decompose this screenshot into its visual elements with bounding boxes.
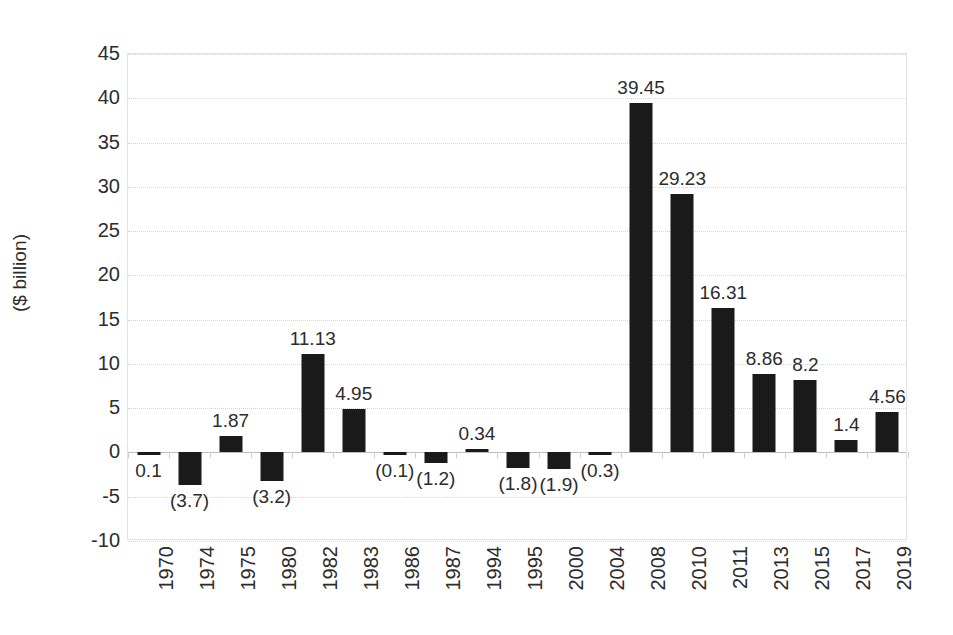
bar-slot: 8.86 (744, 54, 785, 539)
x-axis-tick-mark (456, 452, 457, 458)
x-axis-tick-mark (415, 452, 416, 458)
bar-slot: 8.2 (785, 54, 826, 539)
x-axis-tick-mark (867, 452, 868, 458)
x-axis-tick-mark (128, 452, 129, 458)
x-tick-label: 2008 (648, 546, 668, 591)
bar[interactable] (876, 412, 899, 452)
bar-value-label: 8.2 (792, 355, 818, 374)
bar[interactable] (383, 452, 406, 455)
bar[interactable] (301, 354, 324, 453)
bar[interactable] (671, 194, 694, 453)
bar-slot: (1.9) (539, 54, 580, 539)
x-tick-label: 2015 (812, 546, 832, 591)
bar-value-label: (3.7) (170, 491, 209, 510)
x-tick-label: 1994 (484, 546, 504, 591)
bar[interactable] (506, 452, 529, 468)
bar-value-label: (1.8) (498, 474, 537, 493)
bar[interactable] (630, 103, 653, 452)
x-axis-tick-mark (826, 452, 827, 458)
bar-slot: 16.31 (703, 54, 744, 539)
y-tick-label: 15 (98, 309, 120, 329)
x-axis-tick-mark (580, 452, 581, 458)
bar-slot: 0.34 (456, 54, 497, 539)
y-axis-tick-labels: 454035302520151050-5-10 (46, 0, 120, 635)
bar[interactable] (753, 374, 776, 452)
bar-value-label: 0.34 (458, 424, 495, 443)
bar-slot: (0.3) (580, 54, 621, 539)
x-tick-label: 1970 (156, 546, 176, 591)
bar-slot: 1.4 (826, 54, 867, 539)
bar[interactable] (835, 440, 858, 452)
y-tick-label: 5 (109, 397, 120, 417)
bar-value-label: 1.87 (212, 411, 249, 430)
x-tick-label: 2000 (566, 546, 586, 591)
x-tick-label: 2017 (853, 546, 873, 591)
x-tick-label: 1982 (320, 546, 340, 591)
x-axis-tick-mark (210, 452, 211, 458)
x-tick-label: 1975 (238, 546, 258, 591)
x-axis-tick-mark (703, 452, 704, 458)
bar[interactable] (712, 308, 735, 452)
bar[interactable] (260, 452, 283, 480)
x-tick-label: 1986 (402, 546, 422, 591)
bar-slot: 11.13 (292, 54, 333, 539)
bar[interactable] (424, 452, 447, 463)
bar-value-label: 4.95 (335, 384, 372, 403)
x-axis-tick-mark (785, 452, 786, 458)
x-tick-label: 1995 (525, 546, 545, 591)
plot-area: 0.1(3.7)1.87(3.2)11.134.95(0.1)(1.2)0.34… (127, 53, 907, 540)
bar-slot: 29.23 (662, 54, 703, 539)
bar[interactable] (548, 452, 571, 469)
x-axis-tick-mark (374, 452, 375, 458)
bar-value-label: (0.1) (375, 461, 414, 480)
bar[interactable] (137, 452, 160, 455)
x-tick-label: 1980 (279, 546, 299, 591)
x-axis-tick-mark (169, 452, 170, 458)
bar[interactable] (794, 380, 817, 453)
bar-slot: (3.2) (251, 54, 292, 539)
y-tick-label: 25 (98, 220, 120, 240)
bar-value-label: 0.1 (135, 461, 161, 480)
x-tick-label: 1983 (361, 546, 381, 591)
y-tick-label: -10 (91, 530, 120, 550)
bar-slot: (3.7) (169, 54, 210, 539)
x-axis-tick-mark (539, 452, 540, 458)
gridline--10 (128, 541, 906, 542)
x-tick-label: 1987 (443, 546, 463, 591)
y-axis-title: ($ billion) (0, 0, 40, 545)
x-tick-label: 2019 (894, 546, 914, 591)
bar-slot: (1.2) (415, 54, 456, 539)
bar[interactable] (589, 452, 612, 455)
bar-value-label: (1.9) (539, 475, 578, 494)
x-axis-tick-mark (744, 452, 745, 458)
x-tick-label: 2011 (730, 546, 750, 589)
y-tick-label: 40 (98, 87, 120, 107)
bar-slot: 4.95 (333, 54, 374, 539)
bar[interactable] (219, 436, 242, 453)
bar-value-label: 16.31 (699, 283, 747, 302)
x-axis-tick-mark (908, 452, 909, 458)
x-axis-tick-labels: 1970197419751980198219831986198719941995… (127, 546, 907, 626)
x-axis-tick-mark (662, 452, 663, 458)
bar-value-label: 4.56 (869, 387, 906, 406)
x-axis-tick-mark (333, 452, 334, 458)
bar[interactable] (178, 452, 201, 485)
bar-value-label: 8.86 (746, 349, 783, 368)
bar-value-label: (3.2) (252, 487, 291, 506)
y-tick-label: 35 (98, 132, 120, 152)
x-tick-label: 2010 (689, 546, 709, 591)
bars-layer: 0.1(3.7)1.87(3.2)11.134.95(0.1)(1.2)0.34… (128, 54, 906, 539)
y-tick-label: 45 (98, 43, 120, 63)
y-tick-label: -5 (102, 486, 120, 506)
x-tick-label: 2013 (771, 546, 791, 591)
bar[interactable] (465, 449, 488, 452)
bar-slot: (0.1) (374, 54, 415, 539)
x-tick-label: 2004 (607, 546, 627, 591)
bar-value-label: 1.4 (833, 415, 859, 434)
bar-slot: (1.8) (497, 54, 538, 539)
x-tick-label: 1974 (197, 546, 217, 591)
bar-value-label: (0.3) (581, 461, 620, 480)
bar-slot: 4.56 (867, 54, 908, 539)
bar[interactable] (342, 409, 365, 453)
bar-slot: 39.45 (621, 54, 662, 539)
